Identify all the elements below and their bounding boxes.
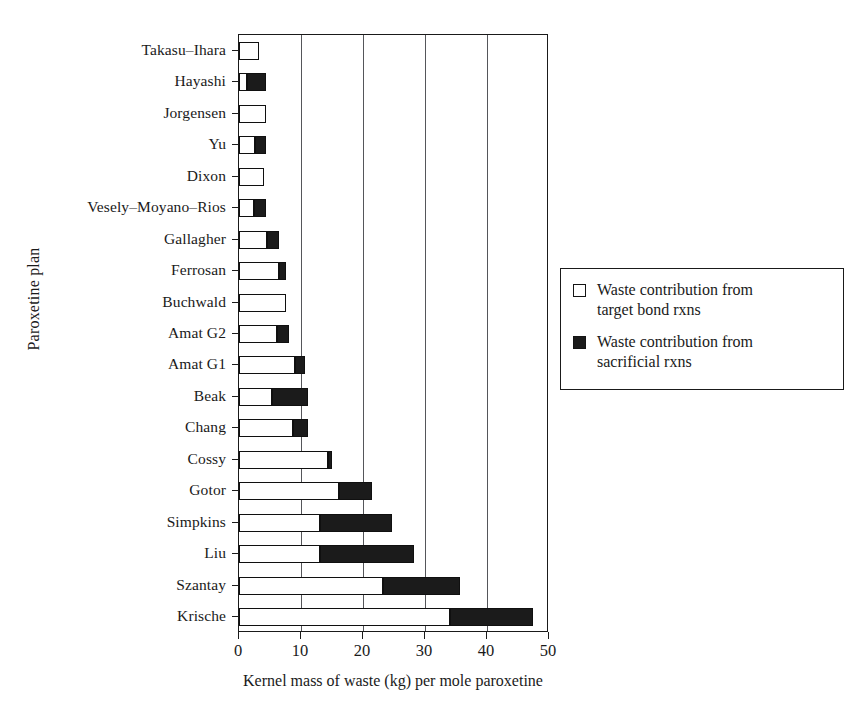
bar-segment bbox=[239, 545, 320, 563]
y-axis-tick-label: Jorgensen bbox=[163, 105, 226, 121]
legend-label-target-bond: Waste contribution from target bond rxns bbox=[597, 280, 753, 321]
bar-segment bbox=[239, 577, 383, 595]
bar-chart-figure: Paroxetine plan Takasu–IharaHayashiJorge… bbox=[0, 0, 859, 720]
bar-segment bbox=[239, 136, 255, 154]
x-axis-tick bbox=[548, 632, 549, 639]
gridline-x-40 bbox=[487, 35, 488, 631]
bar-segment bbox=[328, 451, 332, 469]
y-axis-tick bbox=[232, 364, 238, 365]
legend-label-line2: sacrificial rxns bbox=[597, 352, 753, 372]
y-axis-tick bbox=[232, 585, 238, 586]
y-axis-tick bbox=[232, 302, 238, 303]
legend-label-line1: Waste contribution from bbox=[597, 280, 753, 300]
bar-segment bbox=[239, 42, 259, 60]
y-axis-tick-label: Amat G2 bbox=[168, 325, 226, 341]
x-axis-tick-label: 30 bbox=[416, 641, 433, 661]
y-axis-tick-label: Gotor bbox=[189, 483, 226, 499]
x-axis-tick bbox=[424, 632, 425, 639]
legend-item-target-bond: Waste contribution from target bond rxns bbox=[573, 280, 833, 321]
bar-segment bbox=[239, 356, 295, 374]
y-axis-tick-label: Chang bbox=[185, 420, 226, 436]
y-axis-tick bbox=[232, 176, 238, 177]
y-axis-tick bbox=[232, 333, 238, 334]
bar-segment bbox=[239, 73, 247, 91]
bar-segment bbox=[239, 262, 279, 280]
plot-area bbox=[238, 34, 548, 632]
y-axis-tick-label: Yu bbox=[209, 136, 226, 152]
y-axis-tick-label: Beak bbox=[194, 388, 226, 404]
y-axis-tick-label: Gallagher bbox=[164, 231, 226, 247]
bar-segment bbox=[239, 199, 254, 217]
y-axis-tick-label: Vesely–Moyano–Rios bbox=[87, 199, 226, 215]
legend-item-sacrificial: Waste contribution from sacrificial rxns bbox=[573, 332, 833, 373]
bar-segment bbox=[239, 294, 286, 312]
bar-segment bbox=[239, 105, 266, 123]
x-axis-title-text: Kernel mass of waste (kg) per mole parox… bbox=[243, 672, 543, 689]
x-axis-title: Kernel mass of waste (kg) per mole parox… bbox=[238, 672, 548, 690]
bar-segment bbox=[247, 73, 266, 91]
bar-segment bbox=[383, 577, 460, 595]
black-square-icon bbox=[573, 336, 586, 349]
x-axis-tick-label: 10 bbox=[292, 641, 309, 661]
x-axis-tick bbox=[238, 632, 239, 639]
bar-segment bbox=[239, 325, 277, 343]
bar-segment bbox=[239, 168, 264, 186]
bar-segment bbox=[272, 388, 309, 406]
bar-segment bbox=[339, 482, 372, 500]
bar-segment bbox=[239, 231, 267, 249]
y-axis-tick bbox=[232, 207, 238, 208]
white-square-icon bbox=[573, 284, 586, 297]
y-axis-tick-label: Hayashi bbox=[175, 73, 227, 89]
y-axis-tick-label: Krische bbox=[177, 609, 226, 625]
y-axis-tick bbox=[232, 427, 238, 428]
x-axis-tick bbox=[486, 632, 487, 639]
y-axis-tick bbox=[232, 50, 238, 51]
chart-legend: Waste contribution from target bond rxns… bbox=[560, 268, 844, 390]
y-axis-tick-label: Szantay bbox=[176, 577, 226, 593]
legend-label-sacrificial: Waste contribution from sacrificial rxns bbox=[597, 332, 753, 373]
y-axis-tick bbox=[232, 522, 238, 523]
legend-label-line1: Waste contribution from bbox=[597, 332, 753, 352]
x-axis-tick-label: 20 bbox=[354, 641, 371, 661]
x-axis-tick bbox=[300, 632, 301, 639]
y-axis-tick-label: Dixon bbox=[187, 168, 226, 184]
bar-segment bbox=[239, 514, 320, 532]
y-axis-tick-label: Simpkins bbox=[167, 514, 226, 530]
bar-segment bbox=[320, 514, 392, 532]
x-axis-tick-label: 50 bbox=[540, 641, 557, 661]
y-axis-category-labels: Takasu–IharaHayashiJorgensenYuDixonVesel… bbox=[0, 34, 232, 632]
bar-segment bbox=[267, 231, 279, 249]
bar-segment bbox=[320, 545, 415, 563]
bar-segment bbox=[239, 388, 272, 406]
y-axis-tick bbox=[232, 396, 238, 397]
x-axis-tick-label: 0 bbox=[234, 641, 242, 661]
bar-segment bbox=[293, 419, 309, 437]
y-axis-tick bbox=[232, 270, 238, 271]
y-axis-tick bbox=[232, 144, 238, 145]
bar-segment bbox=[254, 199, 266, 217]
bar-segment bbox=[295, 356, 306, 374]
y-axis-tick-label: Takasu–Ihara bbox=[142, 42, 226, 58]
y-axis-tick-label: Buchwald bbox=[162, 294, 226, 310]
y-axis-tick bbox=[232, 490, 238, 491]
bar-segment bbox=[277, 325, 289, 343]
bar-segment bbox=[239, 482, 339, 500]
x-axis-tick-label: 40 bbox=[478, 641, 495, 661]
y-axis-tick bbox=[232, 113, 238, 114]
y-axis-tick-label: Ferrosan bbox=[171, 262, 226, 278]
gridline-x-20 bbox=[363, 35, 364, 631]
gridline-x-30 bbox=[425, 35, 426, 631]
x-axis-tick bbox=[362, 632, 363, 639]
bar-segment bbox=[239, 451, 328, 469]
y-axis-tick bbox=[232, 616, 238, 617]
y-axis-tick-label: Amat G1 bbox=[168, 357, 226, 373]
y-axis-tick-label: Cossy bbox=[188, 451, 226, 467]
bar-segment bbox=[239, 608, 450, 626]
bar-segment bbox=[279, 262, 286, 280]
bar-segment bbox=[450, 608, 534, 626]
y-axis-tick bbox=[232, 553, 238, 554]
gridline-x-10 bbox=[301, 35, 302, 631]
y-axis-tick-label: Liu bbox=[204, 546, 226, 562]
bar-segment bbox=[255, 136, 266, 154]
bar-segment bbox=[239, 419, 293, 437]
